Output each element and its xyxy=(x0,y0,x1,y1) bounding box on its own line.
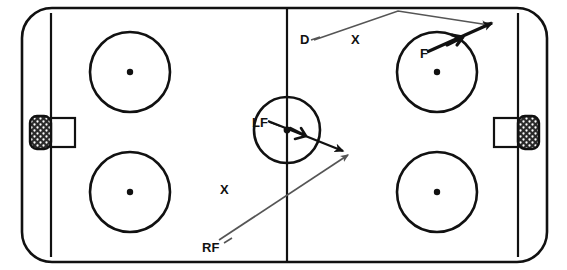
player-label-f: F xyxy=(420,46,428,61)
player-label-rf: RF xyxy=(202,240,219,255)
goal-left-group xyxy=(30,116,75,149)
hockey-rink-diagram: D X F LF X RF xyxy=(0,0,567,270)
faceoff-dot-bottom-left xyxy=(127,189,133,195)
goal-net-left xyxy=(30,116,51,149)
player-label-d: D xyxy=(300,32,309,47)
player-label-x-bottom: X xyxy=(220,182,229,197)
player-label-x-top: X xyxy=(351,32,360,47)
player-label-lf: LF xyxy=(252,115,268,130)
goal-crease-right xyxy=(494,118,518,147)
faceoff-dot-top-left xyxy=(127,69,133,75)
goal-net-right xyxy=(518,116,539,149)
rink-svg-canvas: D X F LF X RF xyxy=(0,0,567,270)
goal-right-group xyxy=(494,116,539,149)
faceoff-dot-bottom-right xyxy=(434,189,440,195)
goal-crease-left xyxy=(51,118,75,147)
faceoff-dot-top-right xyxy=(434,69,440,75)
